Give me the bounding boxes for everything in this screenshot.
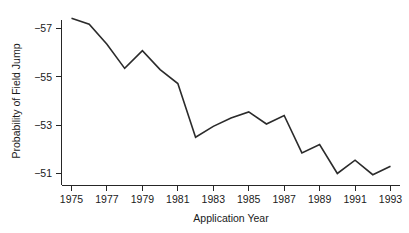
y-tick-marks — [56, 29, 62, 174]
y-tick-label: −57 — [34, 22, 52, 34]
line-chart-canvas: −57 −55 −53 −51 Probability of Field Jum… — [0, 0, 409, 233]
x-tick-marks — [72, 186, 391, 192]
y-tick-label: −53 — [34, 119, 52, 131]
x-tick-label: 1981 — [166, 193, 190, 205]
x-tick-label: 1975 — [60, 193, 84, 205]
x-tick-label: 1989 — [308, 193, 332, 205]
chart-figure: −57 −55 −53 −51 Probability of Field Jum… — [0, 0, 409, 233]
x-tick-label: 1977 — [95, 193, 119, 205]
x-tick-label: 1979 — [131, 193, 155, 205]
x-tick-label: 1991 — [343, 193, 367, 205]
x-tick-label: 1985 — [237, 193, 261, 205]
x-tick-label: 1993 — [379, 193, 403, 205]
y-tick-labels: −57 −55 −53 −51 — [34, 22, 52, 179]
x-tick-label: 1987 — [273, 193, 297, 205]
data-line-probability-of-field-jump — [72, 18, 391, 174]
x-axis-group: 1975 1977 1979 1981 1983 1985 1987 1989 … — [60, 186, 403, 225]
x-tick-labels: 1975 1977 1979 1981 1983 1985 1987 1989 … — [60, 193, 403, 205]
y-tick-label: −55 — [34, 71, 52, 83]
data-series-group — [72, 18, 391, 174]
x-axis-title: Application Year — [193, 212, 269, 224]
x-tick-label: 1983 — [202, 193, 226, 205]
y-tick-label: −51 — [34, 167, 52, 179]
y-axis-title: Probability of Field Jump — [10, 43, 22, 158]
y-axis-group: −57 −55 −53 −51 Probability of Field Jum… — [10, 20, 62, 185]
